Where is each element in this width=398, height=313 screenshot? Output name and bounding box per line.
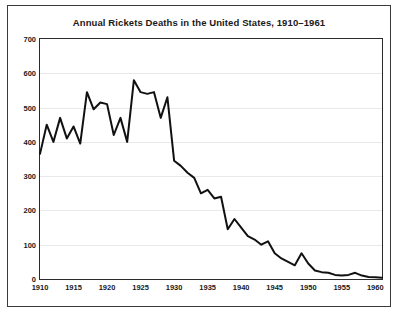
- x-axis-tick-label: 1945: [266, 283, 283, 292]
- rickets-deaths-line: [40, 80, 382, 277]
- x-axis-tick-label: 1915: [65, 283, 82, 292]
- plot-area: 0100200300400500600700 19101915192019251…: [39, 38, 383, 280]
- chart-title: Annual Rickets Deaths in the United Stat…: [8, 17, 390, 28]
- data-line-series: [40, 39, 382, 279]
- y-axis-tick-label: 500: [23, 103, 36, 112]
- y-axis-tick-label: 100: [23, 240, 36, 249]
- y-axis-tick-label: 200: [23, 206, 36, 215]
- x-axis-tick-label: 1925: [132, 283, 149, 292]
- x-axis-tick-label: 1955: [333, 283, 350, 292]
- y-axis-tick-label: 300: [23, 172, 36, 181]
- x-axis-tick-label: 1960: [367, 283, 384, 292]
- x-axis-tick-label: 1930: [166, 283, 183, 292]
- x-axis-tick-label: 1950: [300, 283, 317, 292]
- x-axis-tick-label: 1940: [233, 283, 250, 292]
- y-axis-tick-label: 600: [23, 69, 36, 78]
- chart-figure: Annual Rickets Deaths in the United Stat…: [7, 5, 391, 307]
- x-axis-tick-label: 1910: [32, 283, 49, 292]
- x-axis-tick-label: 1920: [99, 283, 116, 292]
- y-axis-tick-label: 700: [23, 35, 36, 44]
- y-axis-tick-label: 400: [23, 137, 36, 146]
- x-axis-tick-label: 1935: [199, 283, 216, 292]
